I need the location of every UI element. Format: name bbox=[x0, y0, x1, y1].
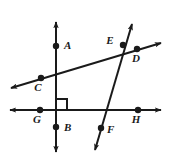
point-label-H: H bbox=[131, 113, 141, 125]
geometry-canvas: A B C D E F G H bbox=[0, 0, 171, 160]
point-label-B: B bbox=[63, 121, 71, 133]
point-dot-E bbox=[120, 42, 126, 48]
geometry-diagram: A B C D E F G H bbox=[0, 0, 171, 160]
right-angle-icon bbox=[56, 99, 67, 110]
right-angle-marker-group bbox=[56, 99, 67, 110]
point-label-F: F bbox=[106, 123, 115, 135]
point-label-G: G bbox=[33, 113, 41, 125]
points-group bbox=[37, 42, 141, 131]
point-label-E: E bbox=[105, 34, 113, 46]
point-label-D: D bbox=[131, 52, 140, 64]
point-dot-F bbox=[98, 125, 104, 131]
point-label-C: C bbox=[34, 81, 42, 93]
point-dot-B bbox=[53, 124, 59, 130]
point-dot-A bbox=[53, 43, 59, 49]
point-label-A: A bbox=[63, 39, 71, 51]
lines-group bbox=[10, 22, 161, 152]
